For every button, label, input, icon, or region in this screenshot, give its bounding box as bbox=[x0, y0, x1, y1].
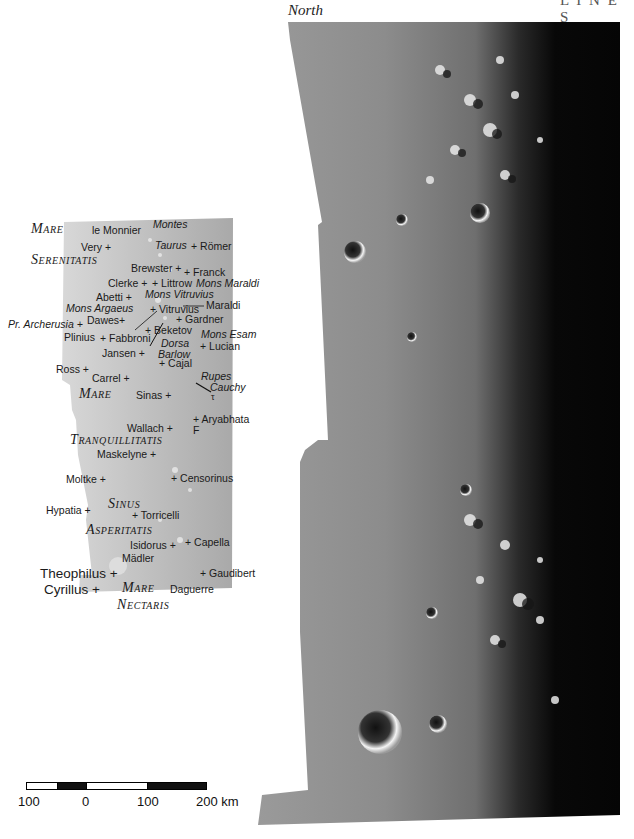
label-isidorus: Isidorus + bbox=[130, 540, 176, 551]
label-sinas: Sinas + bbox=[136, 390, 171, 401]
label-montes: Montes bbox=[153, 219, 187, 230]
label-mons-vitruvius: Mons Vitruvius bbox=[145, 289, 214, 300]
label-hypatia: Hypatia + bbox=[46, 505, 91, 516]
label-tau: τ bbox=[211, 393, 215, 402]
label-gaudibert: + Gaudibert bbox=[200, 568, 255, 579]
label-carrel: Carrel + bbox=[92, 373, 130, 384]
label-le-monnier: le Monnier bbox=[92, 225, 141, 236]
label-very: Very + bbox=[81, 242, 111, 253]
label-f: F bbox=[193, 425, 199, 436]
label-rupes: Rupes bbox=[201, 371, 231, 382]
label-censorinus: + Censorinus bbox=[171, 473, 233, 484]
label-lucian: + Lucian bbox=[200, 341, 240, 352]
label-aryabhata: + Aryabhata bbox=[193, 414, 249, 425]
label-cauchy: Cauchy bbox=[210, 382, 246, 393]
label-moltke: Moltke + bbox=[66, 474, 106, 485]
sea-mare-serenitatis-2: SERENITATIS bbox=[31, 253, 97, 267]
label-dorsa: Dorsa bbox=[161, 338, 189, 349]
sea-sinus-2: ASPERITATIS bbox=[86, 523, 152, 537]
label-torricelli: + Torricelli bbox=[132, 510, 179, 521]
scale-segment bbox=[86, 782, 148, 790]
sea-mare-serenitatis-1: MARE bbox=[31, 222, 63, 236]
sea-mare-tranquillitatis-2: TRANQUILLITATIS bbox=[70, 433, 162, 447]
label-pr-archerusia: Pr. Archerusia + bbox=[8, 319, 83, 330]
scale-segment bbox=[57, 782, 87, 790]
label-taurus: Taurus bbox=[155, 240, 187, 251]
scale-tick-100: 100 bbox=[137, 794, 159, 809]
label-cajal: + Cajal bbox=[159, 358, 192, 369]
label-capella: + Capella bbox=[185, 537, 230, 548]
label-maskelyne: Maskelyne + bbox=[97, 449, 156, 460]
label-madler: Mädler bbox=[122, 553, 154, 564]
sea-mare-nectaris-1: MARE bbox=[122, 581, 154, 595]
label-jansen: Jansen + bbox=[102, 348, 145, 359]
label-wallach: Wallach + bbox=[127, 423, 173, 434]
label-romer: + Römer bbox=[191, 241, 232, 252]
scale-segment bbox=[147, 782, 207, 790]
label-beketov: + Beketov bbox=[145, 325, 192, 336]
label-abetti: Abetti + bbox=[96, 292, 132, 303]
label-dawes: Dawes+ bbox=[87, 315, 125, 326]
label-mons-argaeus: Mons Argaeus bbox=[66, 303, 133, 314]
sea-mare-tranquillitatis-1: MARE bbox=[79, 387, 111, 401]
label-fabbroni: + Fabbroni bbox=[100, 333, 151, 344]
scale-segment bbox=[26, 782, 58, 790]
label-brewster: Brewster + bbox=[131, 263, 181, 274]
scale-tick-0: 0 bbox=[82, 794, 89, 809]
label-plinius: Plinius bbox=[64, 332, 95, 343]
key-map-panel bbox=[0, 0, 634, 839]
scale-tick-100-left: 100 bbox=[18, 794, 40, 809]
scale-tick-200-km: 200 km bbox=[196, 794, 239, 809]
label-mons-maraldi: Mons Maraldi bbox=[196, 278, 259, 289]
label-franck: + Franck bbox=[184, 267, 225, 278]
label-ross: Ross + bbox=[56, 364, 89, 375]
label-theophilus: Theophilus + bbox=[40, 567, 118, 581]
label-cyrillus: Cyrillus + bbox=[44, 583, 100, 597]
label-daguerre: Daguerre bbox=[170, 584, 214, 595]
label-maraldi: Maraldi bbox=[206, 300, 240, 311]
label-mons-esam: Mons Esam bbox=[201, 329, 256, 340]
sea-mare-nectaris-2: NECTARIS bbox=[117, 598, 169, 612]
label-gardner: + Gardner bbox=[176, 314, 224, 325]
label-clerke: Clerke + bbox=[108, 278, 147, 289]
label-littrow: + Littrow bbox=[152, 278, 192, 289]
